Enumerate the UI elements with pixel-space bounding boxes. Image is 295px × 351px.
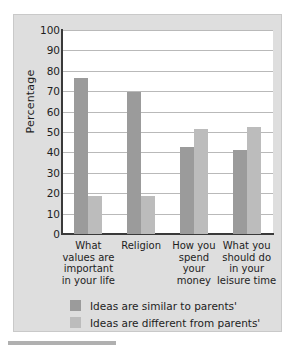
bar-group bbox=[115, 30, 168, 234]
y-axis-label: Percentage bbox=[24, 62, 37, 142]
y-axis-tick-label: 0 bbox=[16, 229, 60, 239]
chart-legend: Ideas are similar to parents' Ideas are … bbox=[70, 298, 280, 332]
caption-text bbox=[18, 345, 138, 351]
legend-swatch-icon bbox=[70, 317, 81, 328]
legend-label: Ideas are similar to parents' bbox=[90, 300, 237, 312]
y-axis-tick-label: 40 bbox=[16, 147, 60, 157]
y-axis-ticks: 1009080706050403020100 bbox=[14, 15, 60, 245]
x-axis-category-label: What youshould doin yourleisure time bbox=[214, 240, 279, 286]
bar-group bbox=[168, 30, 221, 234]
legend-item: Ideas are different from parents' bbox=[70, 315, 280, 330]
chart-figure: 1009080706050403020100 Percentage Whatva… bbox=[13, 14, 282, 332]
bar-group bbox=[220, 30, 273, 234]
y-axis-tick-label: 20 bbox=[16, 188, 60, 198]
y-axis-tick-label: 30 bbox=[16, 168, 60, 178]
x-axis-category-labels: Whatvalues areimportantin your lifeRelig… bbox=[62, 240, 275, 298]
bar bbox=[180, 147, 194, 234]
bar bbox=[194, 129, 208, 234]
bar-series-container bbox=[62, 30, 273, 234]
legend-label: Ideas are different from parents' bbox=[90, 317, 260, 329]
legend-item: Ideas are similar to parents' bbox=[70, 298, 280, 313]
bar bbox=[88, 196, 102, 234]
bar bbox=[247, 127, 261, 234]
bar bbox=[233, 150, 247, 234]
y-axis-tick-label: 10 bbox=[16, 209, 60, 219]
bar-group bbox=[62, 30, 115, 234]
y-axis-tick-label: 90 bbox=[16, 45, 60, 55]
bar bbox=[74, 78, 88, 234]
bar bbox=[141, 196, 155, 234]
y-axis-tick-label: 100 bbox=[16, 25, 60, 35]
legend-swatch-icon bbox=[70, 300, 81, 311]
bar bbox=[127, 92, 141, 234]
